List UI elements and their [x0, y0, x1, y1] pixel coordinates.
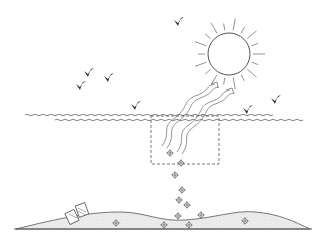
particle-icon	[167, 150, 173, 156]
birds-group	[76, 17, 281, 114]
particle-icon	[178, 160, 184, 166]
particle-icon	[198, 212, 204, 218]
bird-icon	[104, 73, 114, 82]
sun-icon	[195, 19, 265, 90]
rising-arrows	[162, 82, 234, 154]
particle-icon	[179, 187, 185, 193]
bird-icon	[84, 68, 94, 77]
dashed-region	[151, 116, 219, 164]
diagram-canvas	[0, 0, 327, 246]
sea-surface-waves	[25, 114, 303, 121]
bird-icon	[271, 95, 281, 104]
particle-icon	[176, 197, 182, 203]
particle-icon	[175, 213, 181, 219]
particle-icon	[172, 172, 178, 178]
bird-icon	[174, 17, 184, 26]
bird-icon	[131, 101, 141, 110]
particle-icon	[184, 202, 190, 208]
bird-icon	[243, 105, 253, 114]
bird-icon	[76, 81, 86, 90]
